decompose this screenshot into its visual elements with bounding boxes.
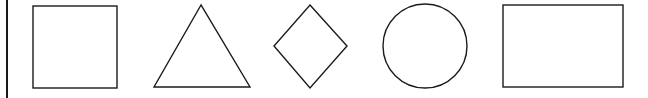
triangle-shape: triangle bbox=[154, 5, 250, 87]
rectangle-shape: rectangle bbox=[503, 5, 623, 87]
circle-shape: circle bbox=[383, 4, 467, 88]
shapes-canvas: square triangle diamond circle rectangle bbox=[0, 0, 648, 98]
diamond-shape: diamond bbox=[274, 5, 347, 88]
square-shape: square bbox=[33, 6, 117, 88]
